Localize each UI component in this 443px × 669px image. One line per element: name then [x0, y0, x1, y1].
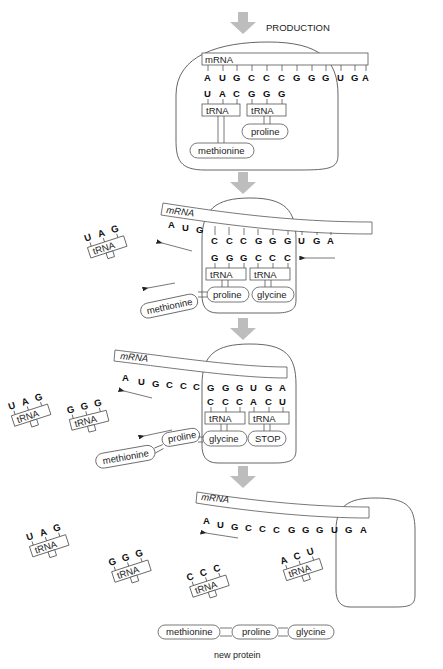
svg-text:C: C [236, 396, 243, 407]
codon-row: A U G C C C G G G U G A [203, 515, 367, 535]
svg-text:G: G [33, 391, 43, 404]
svg-text:U: U [7, 399, 17, 412]
svg-text:C: C [240, 235, 247, 246]
svg-text:C: C [269, 252, 276, 263]
svg-text:G: G [313, 235, 320, 246]
svg-text:G: G [236, 382, 243, 393]
svg-text:C: C [222, 396, 229, 407]
production-arrow-icon [230, 12, 256, 34]
svg-text:glycine: glycine [209, 433, 239, 444]
svg-text:C: C [263, 72, 270, 83]
svg-text:U: U [217, 519, 224, 530]
stage-1: mRNA A U G C C C G G G U G A U A C tR [176, 42, 369, 170]
svg-text:proline: proline [251, 126, 280, 137]
svg-text:C: C [226, 235, 233, 246]
svg-text:G: G [316, 524, 323, 535]
svg-text:A: A [204, 72, 211, 83]
svg-text:U: U [138, 376, 145, 387]
svg-text:U: U [337, 72, 344, 83]
svg-text:A: A [360, 524, 367, 535]
svg-text:U: U [182, 222, 189, 233]
down-arrow-icon [230, 318, 256, 340]
svg-text:G: G [288, 524, 295, 535]
released-trna: G G G tRNA [107, 546, 153, 588]
down-arrow-icon [230, 466, 256, 488]
svg-text:G: G [109, 222, 119, 235]
svg-text:U: U [204, 88, 211, 99]
released-trna: U A G tRNA [7, 390, 53, 432]
svg-text:G: G [302, 524, 309, 535]
svg-text:A: A [203, 515, 210, 526]
svg-text:C: C [255, 252, 262, 263]
stage-3: mRNA A U G C C C G G G U G A C C C A C U… [7, 344, 296, 469]
left-arrow-icon [162, 243, 192, 251]
svg-text:U: U [25, 530, 35, 543]
svg-text:C: C [273, 524, 280, 535]
svg-text:G: G [284, 235, 291, 246]
released-trna: U A G tRNA [83, 222, 129, 264]
svg-text:G: G [134, 547, 144, 560]
svg-text:glycine: glycine [257, 289, 287, 300]
svg-text:G: G [345, 524, 352, 535]
svg-text:C: C [211, 235, 218, 246]
svg-text:methionine: methionine [166, 626, 212, 637]
svg-text:C: C [248, 72, 255, 83]
svg-text:A: A [279, 554, 289, 567]
svg-text:G: G [51, 521, 61, 534]
svg-text:C: C [278, 72, 285, 83]
svg-text:G: G [152, 378, 159, 389]
codon-row: A U G C C C G G G U G A [204, 65, 369, 83]
svg-text:U: U [279, 396, 286, 407]
svg-text:A: A [20, 395, 30, 408]
left-arrow-icon [206, 533, 238, 538]
svg-text:C: C [259, 523, 266, 534]
svg-text:methionine: methionine [198, 145, 244, 156]
svg-text:A: A [38, 526, 48, 539]
svg-text:A: A [219, 88, 226, 99]
svg-text:C: C [233, 88, 240, 99]
svg-text:C: C [193, 381, 200, 392]
new-protein-caption: new protein [214, 650, 261, 660]
svg-text:A: A [279, 382, 286, 393]
svg-text:C: C [180, 380, 187, 391]
production-title: PRODUCTION [266, 22, 330, 33]
svg-text:U: U [250, 382, 257, 393]
svg-text:U: U [83, 231, 93, 244]
released-trna: U A G tRNA [25, 520, 71, 562]
svg-text:U: U [219, 72, 226, 83]
svg-text:G: G [107, 555, 117, 568]
svg-text:A: A [327, 235, 334, 246]
left-arrow-icon [124, 391, 152, 398]
svg-text:G: G [269, 235, 276, 246]
svg-text:C: C [185, 570, 195, 583]
svg-text:C: C [166, 379, 173, 390]
svg-text:STOP: STOP [255, 433, 281, 444]
svg-text:tRNA: tRNA [209, 413, 232, 424]
svg-text:proline: proline [213, 289, 242, 300]
svg-text:G: G [308, 72, 315, 83]
svg-text:G: G [255, 235, 262, 246]
svg-text:A: A [122, 372, 129, 383]
svg-text:C: C [245, 522, 252, 533]
svg-text:G: G [233, 72, 240, 83]
mrna-label: mRNA [205, 54, 234, 65]
svg-text:G: G [322, 72, 329, 83]
svg-text:tRNA: tRNA [254, 269, 277, 280]
svg-text:G: G [211, 252, 218, 263]
svg-text:G: G [222, 382, 229, 393]
svg-text:G: G [231, 521, 238, 532]
svg-text:G: G [120, 551, 130, 564]
down-arrow-icon [230, 172, 256, 194]
left-arrow-icon [148, 283, 175, 288]
svg-text:tRNA: tRNA [253, 413, 276, 424]
svg-text:glycine: glycine [296, 626, 326, 637]
svg-text:tRNA: tRNA [251, 105, 274, 116]
svg-text:C: C [207, 396, 214, 407]
svg-text:G: G [207, 382, 214, 393]
released-trna: A C U tRNA [279, 544, 325, 586]
svg-text:G: G [278, 88, 285, 99]
svg-text:tRNA: tRNA [206, 105, 229, 116]
svg-text:C: C [284, 252, 291, 263]
translation-diagram: PRODUCTION mRNA A U G C C C G G G U G A [0, 0, 443, 669]
svg-text:G: G [66, 403, 76, 415]
